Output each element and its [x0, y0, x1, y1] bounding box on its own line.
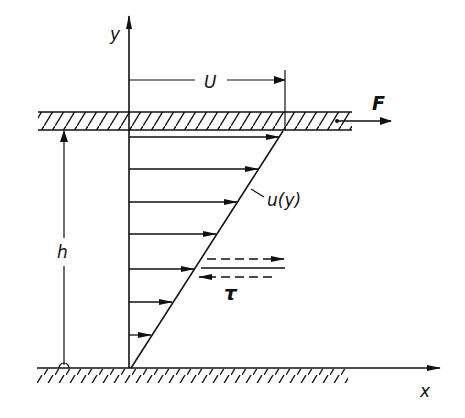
shear-stress: τ [199, 259, 285, 305]
fixed-wall [37, 369, 348, 383]
gap-height-h-dimension: h [57, 131, 69, 368]
y-axis-label: y [109, 24, 121, 44]
wall-hatching [37, 369, 348, 383]
force-label: F [372, 92, 385, 114]
x-axis-label: x [419, 381, 431, 401]
h-label: h [57, 242, 68, 262]
plate-hatching [38, 112, 352, 130]
velocity-arrows [129, 137, 279, 335]
tau-label: τ [224, 281, 238, 305]
u-of-y-label: u(y) [267, 190, 301, 210]
velocity-profile-label: u(y) [251, 189, 301, 210]
couette-flow-diagram: x y U F h u(y) [0, 0, 465, 418]
moving-plate [38, 112, 352, 130]
velocity-profile-line [131, 131, 283, 368]
U-label: U [204, 72, 217, 92]
u-leader-line [251, 189, 264, 197]
